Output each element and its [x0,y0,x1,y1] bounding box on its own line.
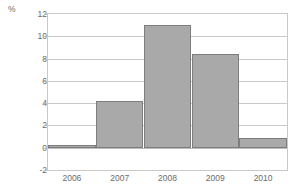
bar-2008 [144,25,192,148]
bar-2009 [192,54,240,148]
y-axis: 121086420-2 [0,13,47,171]
y-axis-tick-label: 0 [7,143,47,152]
y-axis-tick-label: -2 [7,166,47,175]
x-axis: 20062007200820092010 [48,173,287,187]
bar-2006 [48,145,96,148]
y-axis-tick-label: 2 [7,121,47,130]
y-axis-tick-label: 8 [7,54,47,63]
bars-group [48,14,287,170]
bar-chart: % 121086420-2 20062007200820092010 [0,0,304,194]
y-axis-tick-label: 6 [7,77,47,86]
x-axis-tick-label: 2009 [206,173,225,183]
bar-2007 [96,101,144,148]
y-axis-tick-label: 4 [7,99,47,108]
y-axis-tick-label: 12 [7,10,47,19]
x-axis-tick-label: 2006 [62,173,81,183]
x-axis-tick-label: 2010 [254,173,273,183]
y-axis-tick-label: 10 [7,32,47,41]
x-axis-tick-label: 2008 [158,173,177,183]
x-axis-tick-label: 2007 [110,173,129,183]
bar-2010 [239,138,287,148]
